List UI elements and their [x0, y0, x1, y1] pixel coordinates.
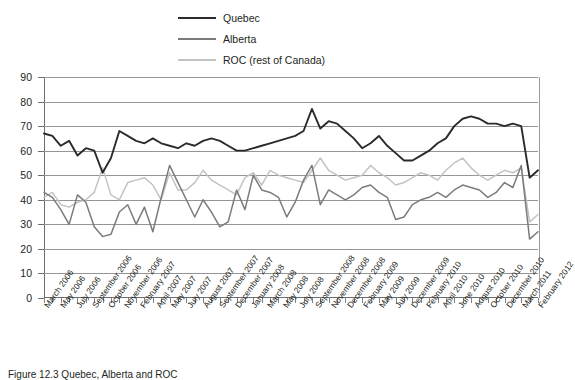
- x-axis-labels: March 2006May 2006July 2006September 200…: [0, 300, 555, 377]
- y-tick-label-10: 10: [6, 267, 32, 279]
- figure-caption: Figure 12.3 Quebec, Alberta and ROC: [8, 369, 178, 380]
- series-line-alberta: [44, 165, 538, 239]
- series-line-roc: [44, 158, 538, 222]
- y-tick-label-30: 30: [6, 218, 32, 230]
- legend-label-roc: ROC (rest of Canada): [223, 55, 325, 66]
- legend-swatch-quebec: [178, 17, 216, 19]
- y-tick-label-50: 50: [6, 169, 32, 181]
- y-tick-label-90: 90: [6, 71, 32, 83]
- y-tick-label-20: 20: [6, 243, 32, 255]
- chart-legend: Quebec Alberta ROC (rest of Canada): [178, 9, 325, 72]
- legend-swatch-roc: [178, 59, 216, 61]
- y-tick-label-60: 60: [6, 145, 32, 157]
- legend-item-quebec: Quebec: [178, 9, 325, 27]
- legend-item-roc: ROC (rest of Canada): [178, 51, 325, 69]
- series-line-quebec: [44, 109, 538, 178]
- y-tick-label-70: 70: [6, 120, 32, 132]
- legend-swatch-alberta: [178, 38, 216, 40]
- y-tick-label-80: 80: [6, 96, 32, 108]
- legend-item-alberta: Alberta: [178, 30, 325, 48]
- legend-label-quebec: Quebec: [223, 13, 260, 24]
- legend-label-alberta: Alberta: [223, 34, 256, 45]
- y-tick-label-40: 40: [6, 194, 32, 206]
